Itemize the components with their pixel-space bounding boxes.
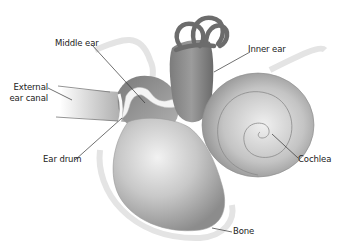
external-ear-canal [60, 88, 125, 122]
label-bone: Bone [233, 226, 254, 236]
label-external-ear-canal-line1: External [10, 82, 48, 92]
label-external-ear-canal-line2: ear canal [2, 93, 48, 103]
label-middle-ear: Middle ear [55, 38, 99, 48]
ear-anatomy-diagram: Middle ear Inner ear External ear canal … [0, 0, 337, 251]
ear-illustration [0, 0, 337, 251]
label-ear-drum: Ear drum [43, 154, 82, 164]
label-cochlea: Cochlea [298, 154, 331, 164]
label-inner-ear: Inner ear [248, 44, 286, 54]
semicircular-canals [176, 18, 227, 50]
leader-inner-ear [214, 52, 250, 72]
